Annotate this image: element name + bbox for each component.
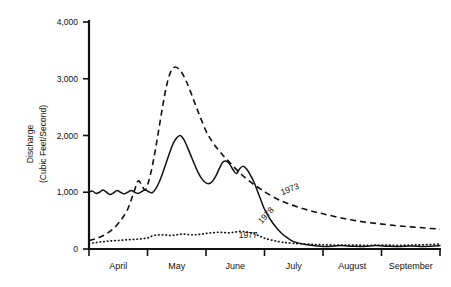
x-axis-month-label: April: [109, 261, 127, 271]
x-axis-month-label: August: [338, 261, 367, 271]
x-axis-month-label: May: [168, 261, 186, 271]
series-line-1977: [89, 231, 440, 245]
y-axis-ticks: 01,0002,0003,0004,000: [57, 17, 89, 254]
y-tick-label: 0: [73, 244, 78, 254]
y-tick-label: 1,000: [57, 187, 79, 197]
x-axis-month-label: June: [225, 261, 245, 271]
x-axis-month-label: July: [286, 261, 303, 271]
discharge-line-chart: Discharge (Cubic Feet/Second) 01,0002,00…: [0, 0, 451, 287]
y-axis-title-line1: Discharge: [25, 125, 35, 164]
y-axis-title: Discharge (Cubic Feet/Second): [25, 105, 48, 183]
series-annotation-1977: 1977: [239, 230, 258, 240]
y-tick-label: 3,000: [57, 74, 79, 84]
series-line-1978: [89, 135, 440, 246]
series-annotations: 197319781977: [239, 181, 301, 241]
x-axis-month-label: September: [389, 261, 433, 271]
series-annotation-1973: 1973: [279, 181, 301, 197]
y-axis-title-line2: (Cubic Feet/Second): [38, 105, 48, 183]
y-tick-label: 2,000: [57, 131, 79, 141]
chart-canvas: Discharge (Cubic Feet/Second) 01,0002,00…: [0, 0, 451, 287]
x-axis-month-labels: AprilMayJuneJulyAugustSeptember: [109, 261, 433, 271]
y-tick-label: 4,000: [57, 17, 79, 27]
